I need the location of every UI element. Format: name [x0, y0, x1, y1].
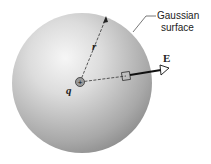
charge-label: q [66, 84, 72, 96]
surface-label-line1: Gaussian [157, 10, 199, 21]
charge-sign: + [78, 78, 83, 87]
field-label: E [163, 52, 170, 64]
surface-label-line2: surface [161, 22, 194, 33]
field-vector-arrowhead-icon [160, 65, 169, 75]
radius-label: r [92, 40, 97, 52]
gaussian-surface-diagram: + q r E Gaussian surface [0, 0, 211, 164]
surface-leader-line [133, 16, 156, 32]
